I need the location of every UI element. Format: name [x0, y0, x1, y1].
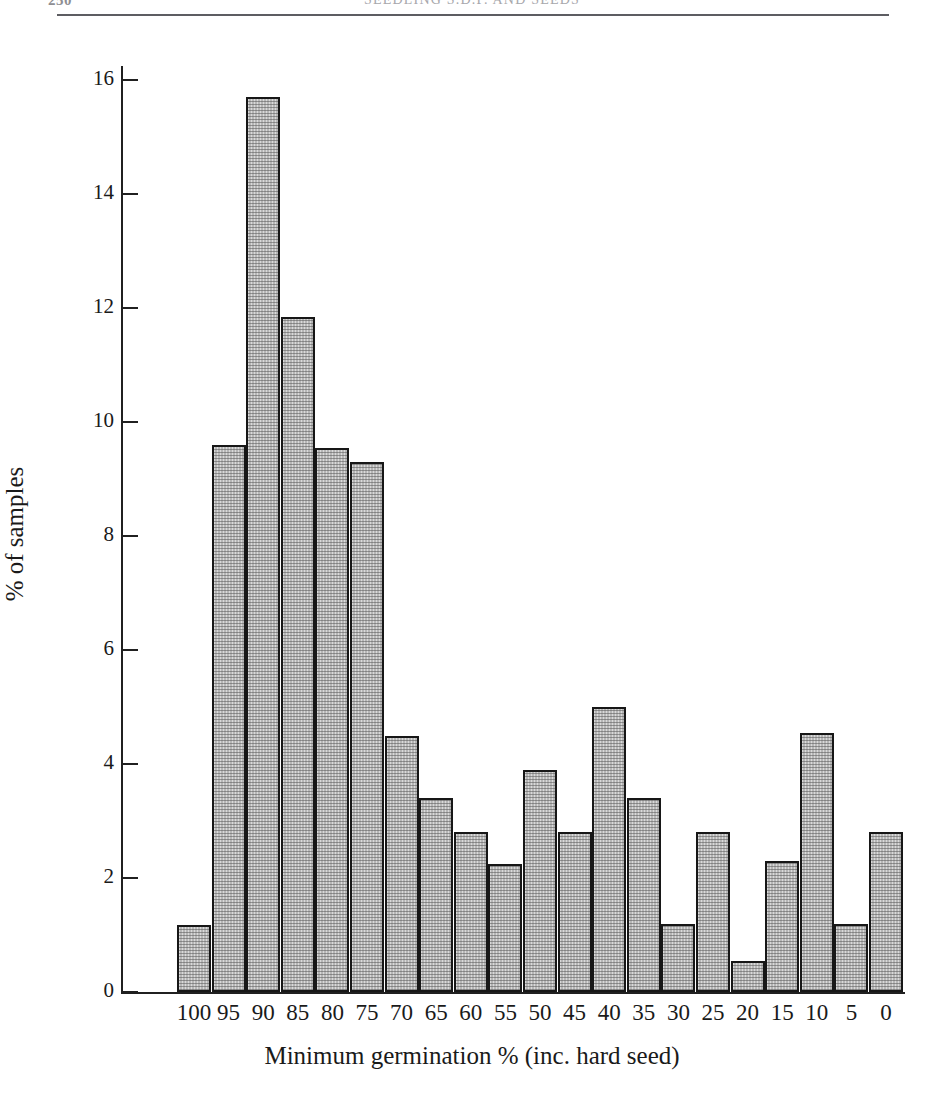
bar — [731, 961, 765, 992]
y-axis-title: % of samples — [1, 374, 29, 694]
bar — [281, 317, 315, 992]
y-axis-tick-label: 0 — [58, 978, 114, 1003]
y-axis-tick-label: 2 — [58, 864, 114, 889]
bar — [419, 798, 453, 992]
bar — [523, 770, 557, 992]
bar — [661, 924, 695, 992]
x-axis-tick-label: 0 — [856, 1000, 916, 1026]
bar — [869, 832, 903, 992]
y-axis-tick-label: 6 — [58, 636, 114, 661]
bar — [212, 445, 246, 992]
bar — [558, 832, 592, 992]
bar — [315, 448, 349, 992]
bar — [696, 832, 730, 992]
x-axis-title: Minimum germination % (inc. hard seed) — [0, 1042, 944, 1070]
bar — [488, 864, 522, 992]
bar — [246, 97, 280, 992]
bars-layer — [121, 68, 905, 992]
y-axis-tick-label: 8 — [58, 522, 114, 547]
x-axis-line — [121, 992, 905, 994]
bar — [800, 733, 834, 992]
bar — [385, 736, 419, 993]
y-axis-tick-label: 4 — [58, 750, 114, 775]
y-axis-tick-label: 10 — [58, 408, 114, 433]
bar — [454, 832, 488, 992]
bar — [592, 707, 626, 992]
bar — [350, 462, 384, 992]
y-axis-tick-label: 16 — [58, 66, 114, 91]
bar — [834, 924, 868, 992]
y-axis-tick-label: 14 — [58, 180, 114, 205]
bar — [177, 925, 211, 992]
bar — [627, 798, 661, 992]
y-axis-tick-label: 12 — [58, 294, 114, 319]
bar — [765, 861, 799, 992]
histogram-chart: % of samples 0246810121416 1009590858075… — [0, 0, 944, 1116]
